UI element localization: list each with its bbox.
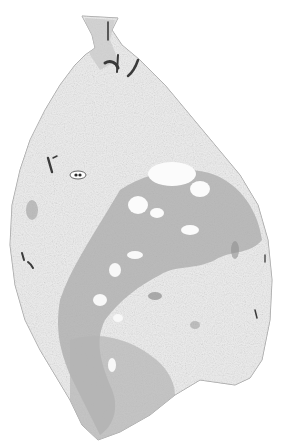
vessel-cross-section (70, 171, 86, 179)
tissue-slide-image (0, 0, 283, 447)
tissue-section (0, 0, 283, 447)
